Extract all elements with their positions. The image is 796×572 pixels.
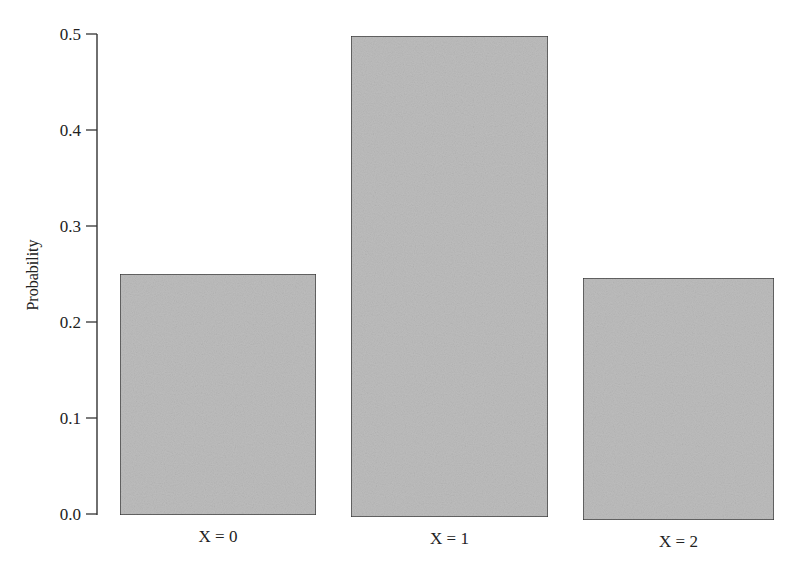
bar-0 (120, 274, 316, 515)
bar-2 (583, 278, 774, 520)
probability-bar-chart: 0.00.10.20.30.40.5 Probability X = 0X = … (0, 0, 796, 572)
bars: X = 0X = 1X = 2 (120, 36, 774, 551)
y-tick-label: 0.0 (60, 505, 81, 524)
x-category-label: X = 2 (659, 532, 698, 551)
y-tick-label: 0.4 (60, 121, 82, 140)
y-tick-label: 0.5 (60, 25, 81, 44)
x-category-label: X = 1 (430, 529, 469, 548)
y-tick-label: 0.3 (60, 217, 81, 236)
bar-1 (351, 36, 548, 517)
x-category-label: X = 0 (199, 527, 238, 546)
y-tick-label: 0.2 (60, 313, 81, 332)
y-axis: 0.00.10.20.30.40.5 Probability (24, 25, 97, 524)
y-tick-label: 0.1 (60, 409, 81, 428)
y-axis-label: Probability (24, 239, 42, 310)
